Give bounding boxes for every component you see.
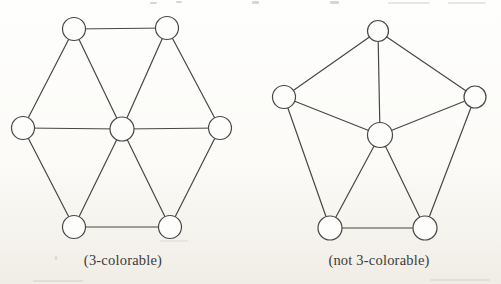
graph-edge-right-bottom-right [170, 128, 220, 227]
graph-node-upper-right [464, 86, 486, 108]
graph-edge-center-bottom-right [380, 135, 425, 228]
graph-edge-left-top-left [23, 29, 74, 128]
graph-label-not-3-colorable: (not 3-colorable) [328, 252, 429, 269]
graph-node-bottom-right [413, 216, 437, 240]
graph-node-bottom-left [63, 216, 86, 239]
graph-edge-bottom-left-left [23, 128, 74, 227]
graph-label-3-colorable: (3-colorable) [84, 252, 162, 269]
graph-node-top [368, 21, 389, 42]
graph-node-upper-left [273, 86, 296, 109]
graph-edge-center-bottom-left [330, 135, 380, 228]
graph-node-center [368, 123, 393, 148]
graph-edge-center-upper-right [380, 97, 475, 135]
graph-edge-center-bottom-left [74, 129, 122, 227]
graph-node-top-right [156, 17, 179, 40]
graph-hexagonal-wheel [12, 17, 232, 239]
graph-edge-center-left [23, 128, 122, 129]
graph-edge-top-right-right [167, 28, 220, 128]
graph-edge-center-right [122, 128, 220, 129]
graph-edge-center-top [378, 31, 380, 135]
graph-pentagonal-wheel [273, 21, 487, 241]
graph-edge-center-bottom-right [122, 129, 170, 227]
graph-edge-center-upper-left [284, 97, 380, 135]
graph-node-left [12, 117, 35, 140]
graph-node-top-left [63, 18, 86, 41]
graph-edge-center-top-left [74, 29, 122, 129]
graph-edge-top-upper-right [378, 31, 475, 97]
graph-edge-upper-right-bottom-right [425, 97, 475, 228]
graph-edge-top-left-top-right [74, 28, 167, 29]
graph-edge-upper-left-top [284, 31, 378, 97]
graph-edge-center-top-right [122, 28, 167, 129]
graph-node-bottom-left [318, 216, 342, 240]
graph-node-right [209, 117, 232, 140]
graph-edge-upper-left-bottom-left [284, 97, 330, 228]
figure-canvas [0, 0, 501, 284]
graph-node-bottom-right [159, 216, 182, 239]
graph-node-center [110, 117, 134, 141]
